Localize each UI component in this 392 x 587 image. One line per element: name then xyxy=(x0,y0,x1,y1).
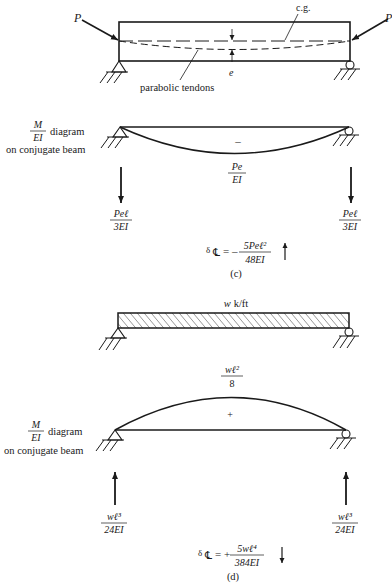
caption-d: (d) xyxy=(227,571,240,583)
moment-sign: – xyxy=(234,135,241,147)
distributed-load-block xyxy=(118,313,349,328)
pin-support-icon xyxy=(101,127,129,148)
conjugate-label: on conjugate beam xyxy=(6,144,85,155)
m-over-ei-den: EI xyxy=(32,132,43,143)
m-over-ei-num: M xyxy=(31,419,41,430)
centerline-symbol: ℄ xyxy=(204,549,212,561)
diagram-word: diagram xyxy=(48,426,82,437)
m-over-ei-den: EI xyxy=(30,432,41,443)
conjugate-label: on conjugate beam xyxy=(4,445,83,456)
reaction-right-num: wℓ³ xyxy=(338,511,353,522)
moment-sign: + xyxy=(227,409,233,420)
roller-support-icon xyxy=(333,127,359,146)
deflection-den: 384EI xyxy=(234,557,260,568)
deflection-formula-d: δ ℄ = + 5wℓ⁴ 384EI xyxy=(198,543,282,568)
peak-num: Pe xyxy=(231,161,243,172)
load-label-left: P xyxy=(73,11,82,25)
tendon-label: parabolic tendons xyxy=(140,82,214,93)
load-arrow-left-icon xyxy=(82,20,118,40)
pin-support-icon xyxy=(96,430,124,451)
deflection-formula-c: δ ℄ = – 5Peℓ² 48EI xyxy=(206,240,285,265)
cg-label: c.g. xyxy=(296,2,310,13)
peak-num: wℓ² xyxy=(225,364,240,375)
reaction-left-den: 24EI xyxy=(104,524,124,535)
tendon-leader xyxy=(180,50,198,80)
reaction-left-den: 3EI xyxy=(113,221,129,232)
load-arrow-right-icon xyxy=(352,19,388,40)
parabolic-tendon xyxy=(119,41,350,50)
reaction-right-num: Peℓ xyxy=(342,208,358,219)
diagram-word: diagram xyxy=(50,126,84,137)
reaction-left-num: wℓ³ xyxy=(107,511,122,522)
load-label: wk/ft xyxy=(224,298,249,309)
delta-symbol: δ xyxy=(206,245,210,255)
delta-symbol: δ xyxy=(198,548,202,558)
caption-c: (c) xyxy=(230,268,242,280)
reaction-right-den: 24EI xyxy=(335,524,355,535)
beam-diagram-figure: P P c.g. e parabolic tendons M xyxy=(0,0,392,587)
reaction-right-den: 3EI xyxy=(342,221,358,232)
uniform-load-beam: wk/ft xyxy=(99,298,359,350)
load-label-right: P xyxy=(384,11,392,25)
reaction-left-num: Peℓ xyxy=(113,208,129,219)
pin-support-icon xyxy=(100,61,128,83)
m-over-ei-num: M xyxy=(33,119,43,130)
centerline-symbol: ℄ xyxy=(212,246,220,258)
load-units: k/ft xyxy=(234,298,249,309)
prestressed-beam: P P c.g. e parabolic tendons xyxy=(73,2,392,93)
eccentricity-label: e xyxy=(229,67,234,78)
deflection-sign: = + xyxy=(215,548,230,560)
cg-leader xyxy=(285,14,298,40)
peak-den: 8 xyxy=(230,378,235,389)
load-w: w xyxy=(224,298,231,309)
deflection-num: 5Peℓ² xyxy=(244,240,268,251)
roller-support-icon xyxy=(333,328,359,348)
deflection-num: 5wℓ⁴ xyxy=(237,543,257,554)
peak-den: EI xyxy=(231,174,242,185)
conjugate-beam-c: M EI diagram on conjugate beam – Pe EI xyxy=(6,119,361,280)
deflection-sign: = – xyxy=(223,245,238,257)
roller-support-icon xyxy=(330,430,356,449)
roller-support-icon xyxy=(334,61,360,80)
deflection-den: 48EI xyxy=(245,254,265,265)
pin-support-icon xyxy=(99,328,127,350)
conjugate-beam-d: wℓ² 8 + M EI diagram on conjugate beam w… xyxy=(4,364,358,583)
